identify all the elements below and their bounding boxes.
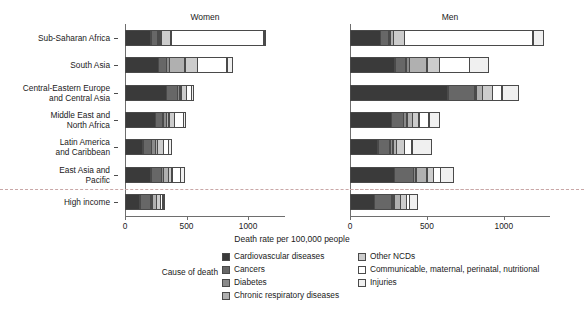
x-axis-tick-label: 1000 [239,221,257,231]
bar-segment[interactable] [391,112,404,128]
bar-segment[interactable] [393,30,405,46]
bar-segment[interactable] [350,112,392,128]
legend-item[interactable]: Cancers [222,263,339,276]
bar-segment[interactable] [416,167,428,183]
bar-segment[interactable] [350,139,378,155]
legend-item[interactable]: Other NCDs [358,250,539,263]
bar-segment[interactable] [482,85,493,101]
bar-segment[interactable] [469,57,489,73]
legend-swatch-icon [358,253,366,261]
bar-segment[interactable] [395,57,407,73]
legend-item[interactable]: Diabetes [222,276,339,289]
bar-segment[interactable] [404,30,533,46]
bar-segment[interactable] [191,85,194,101]
chart-container: Women Men Sub-Saharan AfricaSouth AsiaCe… [0,0,584,316]
bar-segment[interactable] [151,167,162,183]
y-axis-tick [114,202,118,203]
legend-item-label: Injuries [370,278,397,287]
legend-item-label: Other NCDs [370,252,415,261]
bar-segment[interactable] [439,57,470,73]
bar-segment[interactable] [166,85,178,101]
bar-women-3[interactable] [125,112,186,128]
bar-men-4[interactable] [350,139,432,155]
bar-segment[interactable] [171,30,265,46]
bar-segment[interactable] [502,85,519,101]
bar-segment[interactable] [125,57,159,73]
bar-segment[interactable] [409,57,427,73]
panel-women [125,24,285,216]
bar-women-4[interactable] [125,139,172,155]
bar-segment[interactable] [427,57,440,73]
bar-men-6[interactable] [350,194,418,210]
bar-segment[interactable] [125,167,151,183]
x-axis-tick-mark [125,217,126,220]
y-axis-tick [114,175,118,176]
bar-women-6[interactable] [125,194,165,210]
bar-segment[interactable] [125,85,167,101]
legend-item[interactable]: Cardiovascular diseases [222,250,339,263]
y-axis-label: Central-Eastern Europe and Central Asia [23,83,110,103]
bar-segment[interactable] [374,194,392,210]
x-axis-tick-mark [187,217,188,220]
legend-item[interactable]: Chronic respiratory diseases [222,289,339,302]
y-axis-tick [114,65,118,66]
bar-segment[interactable] [264,30,266,46]
legend-item-label: Communicable, maternal, perinatal, nutri… [370,265,539,274]
bar-segment[interactable] [185,57,198,73]
legend-item[interactable]: Injuries [358,276,539,289]
legend-swatch-icon [222,279,230,287]
bar-segment[interactable] [429,112,441,128]
bar-segment[interactable] [412,139,432,155]
bar-men-2[interactable] [350,85,519,101]
bar-segment[interactable] [125,30,151,46]
bar-segment[interactable] [163,194,165,210]
bar-segment[interactable] [350,167,395,183]
group-separator [350,189,584,190]
bar-segment[interactable] [378,139,390,155]
legend-swatch-icon [222,266,230,274]
x-axis-tick-label: 0 [123,221,128,231]
legend-item[interactable]: Communicable, maternal, perinatal, nutri… [358,263,539,276]
legend-item-label: Diabetes [234,278,267,287]
y-axis-tick [114,93,118,94]
y-axis-label: South Asia [70,60,110,70]
bar-men-0[interactable] [350,30,544,46]
legend-swatch-icon [222,253,230,261]
y-axis-tick [114,38,118,39]
bar-women-0[interactable] [125,30,266,46]
bar-segment[interactable] [448,85,475,101]
bar-women-1[interactable] [125,57,233,73]
bar-men-5[interactable] [350,167,454,183]
bar-segment[interactable] [125,139,143,155]
bar-segment[interactable] [350,85,448,101]
bar-segment[interactable] [350,30,381,46]
bar-segment[interactable] [140,194,152,210]
x-axis-tick-label: 500 [180,221,194,231]
bar-segment[interactable] [440,167,454,183]
bar-segment[interactable] [183,112,186,128]
panel-men [350,24,550,216]
bar-segment[interactable] [533,30,545,46]
bar-segment[interactable] [419,112,430,128]
bar-segment[interactable] [394,167,414,183]
bar-segment[interactable] [350,57,395,73]
x-axis-tick-mark [248,217,249,220]
bar-segment[interactable] [169,57,185,73]
bar-women-5[interactable] [125,167,185,183]
bar-segment[interactable] [409,194,417,210]
x-axis-tick-mark [504,217,505,220]
legend-title: Cause of death [150,267,218,277]
bar-segment[interactable] [227,57,234,73]
bar-segment[interactable] [350,194,375,210]
bar-segment[interactable] [125,112,156,128]
bar-segment[interactable] [197,57,227,73]
bar-segment[interactable] [180,167,185,183]
legend-column-right: Other NCDsCommunicable, maternal, perina… [358,250,539,289]
bar-men-1[interactable] [350,57,489,73]
bar-segment[interactable] [125,194,140,210]
bar-segment[interactable] [168,139,172,155]
bar-women-2[interactable] [125,85,194,101]
legend-swatch-icon [358,266,366,274]
bar-men-3[interactable] [350,112,440,128]
legend-column-left: Cardiovascular diseasesCancersDiabetesCh… [222,250,339,302]
